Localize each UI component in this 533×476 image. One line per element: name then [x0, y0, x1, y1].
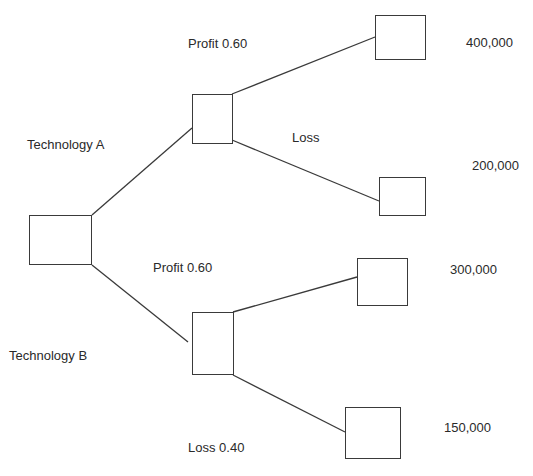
payoff-b-loss: 150,000 — [444, 420, 491, 436]
label-technology-b: Technology B — [9, 348, 87, 364]
label-a-loss: Loss — [292, 130, 319, 146]
payoff-b-profit: 300,000 — [450, 262, 497, 278]
label-b-loss: Loss 0.40 — [188, 440, 244, 456]
tech-b-chance-node — [192, 312, 234, 375]
leaf-a-loss-node — [379, 177, 426, 216]
payoff-a-profit: 400,000 — [466, 35, 513, 51]
label-a-profit: Profit 0.60 — [188, 36, 247, 52]
edge-root-tech-b — [92, 265, 188, 342]
root-decision-node — [29, 215, 92, 265]
edge-root-tech-a — [92, 128, 192, 215]
leaf-b-loss-node — [345, 407, 401, 459]
edge-a-profit — [232, 37, 375, 94]
label-b-profit: Profit 0.60 — [153, 260, 212, 276]
payoff-a-loss: 200,000 — [472, 158, 519, 174]
leaf-b-profit-node — [357, 258, 408, 306]
edge-b-loss — [233, 375, 345, 432]
leaf-a-profit-node — [375, 15, 426, 60]
tech-a-chance-node — [192, 94, 233, 144]
label-technology-a: Technology A — [27, 137, 104, 153]
edge-b-profit — [233, 277, 357, 312]
edge-a-loss — [232, 140, 379, 201]
